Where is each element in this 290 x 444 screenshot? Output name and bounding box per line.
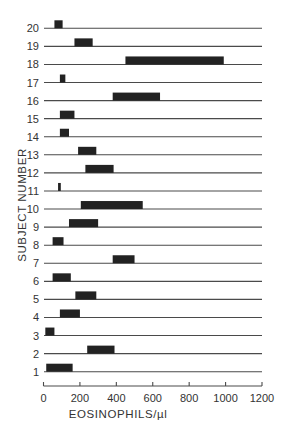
subject-label: 6	[33, 275, 39, 287]
range-bar	[58, 183, 61, 191]
range-bar	[54, 20, 62, 28]
x-tick-label: 800	[180, 392, 198, 404]
x-tick-label: 400	[107, 392, 125, 404]
subject-label: 17	[27, 77, 39, 89]
subject-row: 12	[27, 165, 262, 179]
range-bar	[53, 237, 64, 245]
x-tick-label: 1200	[250, 392, 274, 404]
range-bar	[60, 129, 69, 137]
range-bar	[53, 273, 71, 281]
subject-label: 2	[33, 348, 39, 360]
x-axis: 020040060080010001200	[40, 382, 274, 404]
subject-label: 15	[27, 113, 39, 125]
subject-row: 17	[27, 75, 262, 89]
subject-row: 6	[33, 273, 262, 287]
range-bar	[75, 291, 96, 299]
range-bar	[69, 219, 98, 227]
range-bar	[74, 38, 92, 46]
subject-label: 16	[27, 95, 39, 107]
subject-row: 19	[27, 38, 262, 52]
subject-label: 5	[33, 293, 39, 305]
x-tick-label: 200	[71, 392, 89, 404]
subject-row: 11	[28, 183, 262, 197]
subject-label: 13	[27, 149, 39, 161]
subject-row: 7	[33, 255, 262, 269]
subject-row: 18	[27, 56, 262, 70]
range-bar	[113, 255, 135, 263]
x-tick-label: 1000	[213, 392, 237, 404]
subject-label: 7	[33, 257, 39, 269]
subject-label: 19	[27, 40, 39, 52]
subject-row: 3	[33, 328, 262, 342]
x-tick-label: 0	[40, 392, 46, 404]
subject-label: 3	[33, 330, 39, 342]
subject-row: 13	[27, 147, 262, 161]
subject-row: 5	[33, 291, 262, 305]
subject-row: 20	[27, 20, 262, 34]
x-axis-title: EOSINOPHILS/µl	[69, 408, 168, 420]
subject-row: 1	[33, 364, 262, 378]
subject-row: 10	[27, 201, 262, 215]
range-bar	[85, 165, 113, 173]
subject-label: 8	[33, 239, 39, 251]
subject-label: 11	[28, 185, 39, 197]
range-bar	[81, 201, 143, 209]
subject-label: 10	[27, 203, 39, 215]
range-bar	[125, 56, 223, 64]
range-bar	[87, 346, 114, 354]
range-bar	[60, 111, 75, 119]
subject-row: 15	[27, 111, 262, 125]
subject-label: 1	[33, 366, 39, 378]
subject-rows: 1234567891011121314151617181920	[27, 20, 262, 377]
range-bar	[45, 328, 54, 336]
y-axis-title: SUBJECT NUMBER	[16, 148, 28, 262]
subject-label: 20	[27, 22, 39, 34]
subject-row: 8	[33, 237, 262, 251]
subject-label: 4	[33, 311, 39, 323]
range-bar	[113, 93, 160, 101]
eosinophil-range-chart: 1234567891011121314151617181920 02004006…	[0, 0, 290, 444]
range-bar	[78, 147, 96, 155]
subject-row: 14	[27, 129, 262, 143]
range-bar	[46, 364, 72, 372]
subject-label: 12	[27, 167, 39, 179]
subject-label: 14	[27, 131, 39, 143]
subject-row: 16	[27, 93, 262, 107]
subject-row: 9	[33, 219, 262, 233]
subject-label: 18	[27, 58, 39, 70]
subject-row: 4	[33, 309, 262, 323]
subject-label: 9	[33, 221, 39, 233]
subject-row: 2	[33, 346, 262, 360]
range-bar	[60, 309, 80, 317]
x-tick-label: 600	[144, 392, 162, 404]
range-bar	[60, 75, 65, 83]
